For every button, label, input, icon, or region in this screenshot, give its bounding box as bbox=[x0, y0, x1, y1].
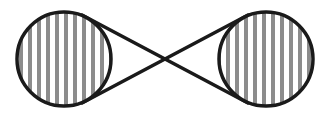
right-pulley bbox=[219, 12, 313, 106]
left-pulley bbox=[17, 12, 111, 106]
crossed-belt-diagram bbox=[0, 0, 328, 118]
diagram-canvas bbox=[0, 0, 328, 118]
